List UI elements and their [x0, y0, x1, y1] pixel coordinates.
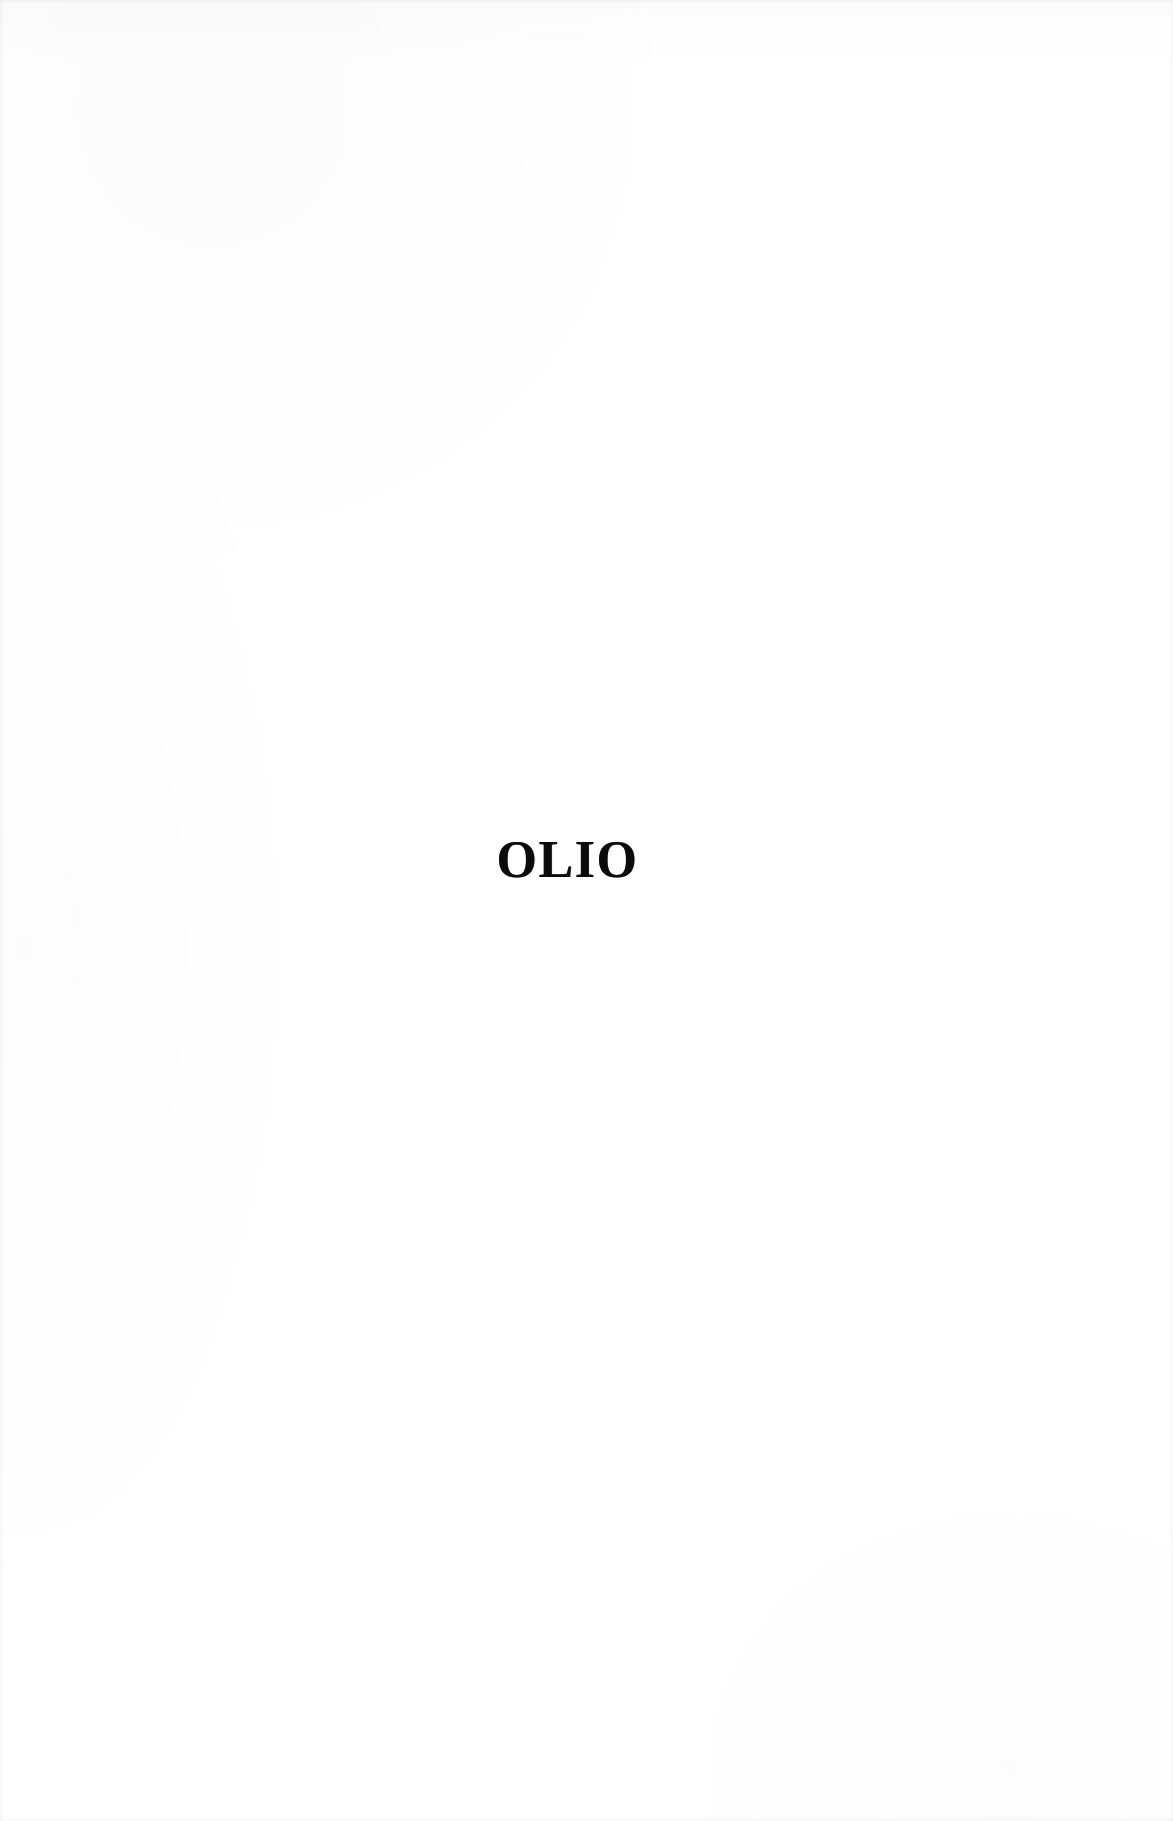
part-title-block: OLIO — [0, 834, 1173, 886]
page-title: OLIO — [497, 834, 639, 886]
scan-tone-overlay — [0, 0, 1173, 1821]
scan-edge-vignette — [0, 0, 1173, 1821]
scanned-page: OLIO — [0, 0, 1173, 1821]
